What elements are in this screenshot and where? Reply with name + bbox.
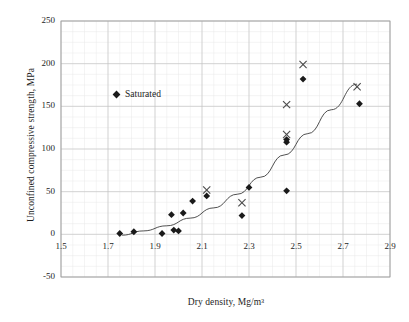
legend: Saturated	[112, 89, 161, 99]
figure-container: 250200150100500-50 1.51.71.92.12.32.52.7…	[0, 0, 409, 322]
x-tick-label: 2.5	[279, 241, 313, 251]
x-tick-label: 2.7	[326, 241, 360, 251]
legend-label-saturated: Saturated	[125, 89, 161, 99]
x-tick-label: 1.5	[44, 241, 78, 251]
x-tick-label: 2.9	[373, 241, 407, 251]
x-axis-title: Dry density, Mg/m³	[61, 297, 391, 307]
y-tick-label: 250	[21, 15, 55, 25]
x-tick-label: 2.3	[232, 241, 266, 251]
caption-partial	[0, 312, 409, 322]
legend-diamond-icon	[112, 90, 121, 99]
y-tick-label: -50	[21, 271, 55, 281]
x-tick-label: 2.1	[185, 241, 219, 251]
x-tick-label: 1.9	[138, 241, 172, 251]
y-axis-title: Unconfined compressive strength, MPa	[26, 40, 36, 250]
x-tick-label: 1.7	[91, 241, 125, 251]
scatter-plot-canvas	[0, 0, 409, 322]
